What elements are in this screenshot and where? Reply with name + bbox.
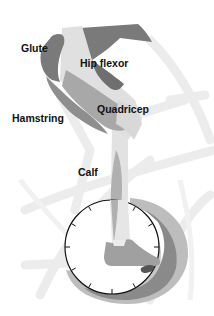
- shoe-heel-light: [112, 240, 126, 246]
- label-calf: Calf: [78, 167, 98, 178]
- torso-shape: [80, 24, 152, 60]
- label-glute: Glute: [21, 43, 48, 54]
- label-hip-flexor: Hip flexor: [80, 58, 128, 69]
- bike-tube-2: [150, 40, 210, 140]
- label-hamstring: Hamstring: [12, 113, 64, 124]
- label-quadricep: Quadricep: [97, 104, 149, 115]
